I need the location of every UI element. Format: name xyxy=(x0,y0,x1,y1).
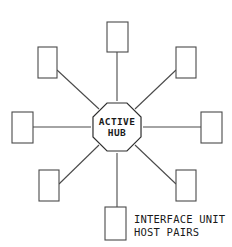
active-hub-node[interactable]: ACTIVE HUB xyxy=(93,103,141,151)
node-north[interactable] xyxy=(107,22,128,52)
node-south[interactable] xyxy=(105,207,126,240)
node-southeast[interactable] xyxy=(176,170,196,201)
caption-line2: HOST PAIRS xyxy=(134,226,199,238)
node-east[interactable] xyxy=(201,112,222,143)
spoke-northwest xyxy=(57,70,99,109)
node-northeast[interactable] xyxy=(176,47,196,78)
hub-label-line2: HUB xyxy=(108,127,126,138)
diagram-caption: INTERFACE UNIT HOST PAIRS xyxy=(134,213,226,238)
network-diagram-canvas: ACTIVE HUB INTERFACE UNIT HOST PAIRS xyxy=(0,0,232,247)
node-southwest[interactable] xyxy=(39,170,59,201)
caption-line1: INTERFACE UNIT xyxy=(134,213,226,225)
node-west[interactable] xyxy=(12,112,33,143)
spoke-southwest xyxy=(59,145,99,184)
node-northwest[interactable] xyxy=(38,47,57,78)
hub-label-line1: ACTIVE xyxy=(99,116,136,127)
spoke-southeast xyxy=(135,145,176,184)
spoke-northeast xyxy=(135,70,176,109)
network-topology-diagram: ACTIVE HUB INTERFACE UNIT HOST PAIRS xyxy=(0,0,232,247)
